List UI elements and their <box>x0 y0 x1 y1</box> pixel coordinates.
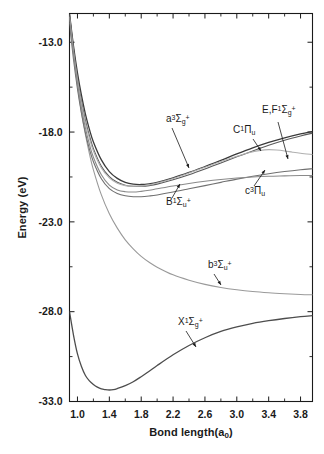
x-tick-label-6: 3.4 <box>261 408 276 420</box>
x-tick-label-1: 1.4 <box>102 408 117 420</box>
x-tick-label-7: 3.8 <box>293 408 308 420</box>
potential-energy-curve-figure: 1.01.41.82.22.63.03.43.8 -13.0-18.0-23.0… <box>0 0 324 454</box>
leader-arrowhead-EF1Sg <box>285 155 288 159</box>
leader-arrowhead-b3Su <box>218 281 221 285</box>
x-tick-label-4: 2.6 <box>198 408 213 420</box>
curve-label-EF1Sg: E,F1Σg+ <box>262 104 296 117</box>
x-tick-label-2: 1.8 <box>134 408 149 420</box>
chart-canvas: 1.01.41.82.22.63.03.43.8 -13.0-18.0-23.0… <box>0 0 324 454</box>
y-tick-label-1: -18.0 <box>39 126 63 138</box>
x-tick-label-3: 2.2 <box>166 408 181 420</box>
x-tick-label-0: 1.0 <box>70 408 85 420</box>
leader-arrowhead-c3Pu <box>262 170 265 174</box>
leader-arrowhead-a3sg <box>186 164 189 168</box>
curve-label-C1Pu: C1Πu <box>233 124 255 136</box>
x-axis-tick-labels: 1.01.41.82.22.63.03.43.8 <box>70 408 308 420</box>
curve-label-X1Sg: X1Σg+ <box>178 316 203 329</box>
curve-EF1Sigma_g+ <box>70 17 313 186</box>
curve-a3Sigma_g+ <box>70 14 313 185</box>
x-axis-title: Bond length(a0) <box>149 426 233 440</box>
curve-annotation-labels: a3Σg+C1ΠuE,F1Σg+B1Σu+c3Πub3Σu+X1Σg+ <box>166 104 296 329</box>
curve-b3Sigma_u+ <box>70 15 313 295</box>
curve-label-B1Su: B1Σu+ <box>166 196 191 208</box>
x-tick-label-5: 3.0 <box>230 408 245 420</box>
curve-C1Pi_u <box>70 14 313 186</box>
annotation-leader-lines <box>172 122 288 347</box>
y-axis-title: Energy (eV) <box>16 176 28 238</box>
curve-label-b3Su: b3Σu+ <box>208 259 232 271</box>
leader-line-EF1Sg <box>278 122 288 159</box>
y-tick-label-0: -13.0 <box>39 36 63 48</box>
curve-label-c3Pu: c3Πu <box>245 185 265 197</box>
leader-line-a3sg <box>172 128 189 168</box>
y-axis-tick-labels: -13.0-18.0-23.0-28.0-33.0 <box>39 36 63 407</box>
y-tick-label-2: -23.0 <box>39 216 63 228</box>
y-tick-label-3: -28.0 <box>39 305 63 317</box>
curve-label-a3sg: a3Σg+ <box>166 113 190 126</box>
energy-curves <box>70 14 313 391</box>
y-tick-label-4: -33.0 <box>39 395 63 407</box>
